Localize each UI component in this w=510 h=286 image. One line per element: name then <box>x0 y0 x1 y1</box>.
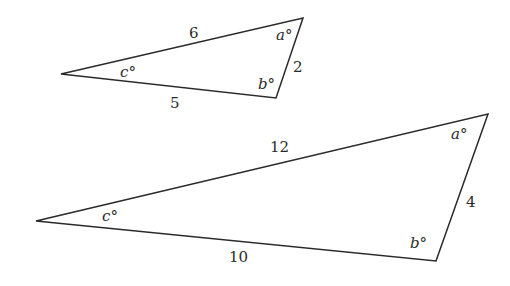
large-triangle: 12 4 10 a° b° c° <box>36 114 488 266</box>
large-side-bottom-label: 10 <box>229 248 248 266</box>
similar-triangles-figure: 6 2 5 a° b° c° 12 4 10 a° b° c° <box>0 0 510 286</box>
small-side-top-label: 6 <box>189 24 199 42</box>
large-angle-c-label: c° <box>102 207 118 225</box>
large-angle-a-label: a° <box>451 125 467 143</box>
small-side-bottom-label: 5 <box>170 94 180 112</box>
small-angle-b-label: b° <box>258 75 275 93</box>
large-side-right-label: 4 <box>466 193 476 211</box>
small-side-right-label: 2 <box>293 58 303 76</box>
small-angle-a-label: a° <box>276 26 292 44</box>
large-angle-b-label: b° <box>410 234 427 252</box>
small-angle-c-label: c° <box>120 63 136 81</box>
large-side-top-label: 12 <box>270 138 289 156</box>
small-triangle: 6 2 5 a° b° c° <box>61 18 303 112</box>
